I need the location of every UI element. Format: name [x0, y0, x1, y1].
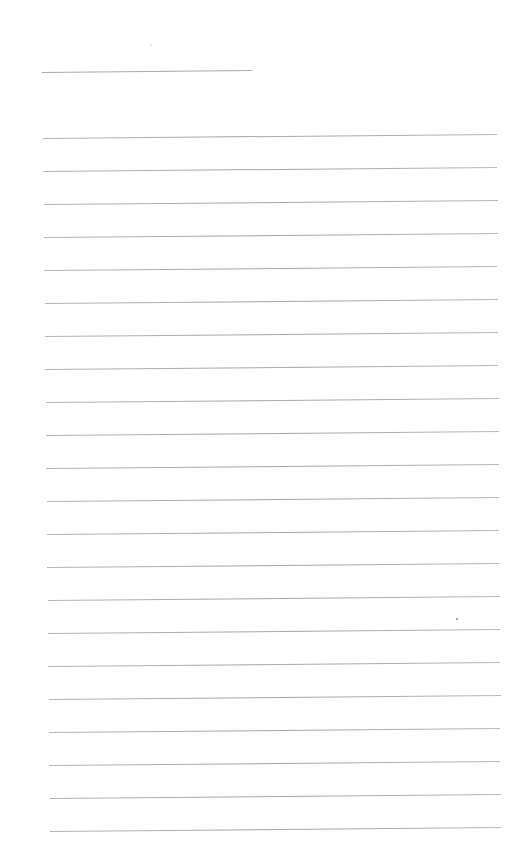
lined-paper-page — [0, 0, 528, 864]
ruled-line — [44, 266, 497, 271]
ruled-line — [50, 794, 501, 799]
ruled-line — [44, 200, 498, 205]
ruled-line — [49, 761, 500, 766]
ruled-line — [49, 695, 501, 700]
ruled-line — [47, 563, 499, 568]
ruled-line — [49, 728, 500, 733]
ruled-line — [45, 365, 498, 370]
ruled-line — [46, 464, 499, 469]
ink-dot-mark — [456, 618, 458, 620]
ruled-line — [48, 629, 500, 634]
ruled-line — [50, 827, 501, 832]
ruled-line — [47, 530, 499, 535]
ruled-line — [47, 497, 499, 502]
faint-speck-mark — [150, 44, 152, 46]
ruled-line — [45, 299, 498, 304]
ruled-line — [43, 134, 497, 139]
ruled-line — [45, 332, 498, 337]
ruled-line — [48, 596, 500, 601]
name-header-line — [42, 70, 252, 73]
ruled-line — [43, 167, 497, 172]
ruled-line — [46, 431, 499, 436]
ruled-line — [48, 662, 500, 667]
ruled-line — [44, 233, 498, 238]
ruled-line — [46, 398, 499, 403]
